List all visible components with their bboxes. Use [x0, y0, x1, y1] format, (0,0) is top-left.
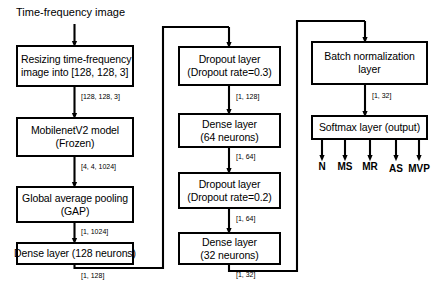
node-dropout-02-line-2: (Dropout rate=0.2) [187, 191, 271, 204]
node-resize-line-1: Resizing time-frequency [21, 53, 131, 66]
node-dense-128[interactable]: Dense layer (128 neurons) [16, 242, 134, 265]
node-dropout-02-line-1: Dropout layer [199, 178, 261, 191]
node-dense-64[interactable]: Dense layer (64 neurons) [178, 113, 281, 148]
edge-label-batchnorm-out: [1, 32] [372, 92, 391, 100]
node-dropout-03[interactable]: Dropout layer (Dropout rate=0.3) [178, 46, 281, 86]
output-label-mvp: MVP [404, 163, 434, 174]
node-softmax-line-1: Softmax layer (output) [319, 121, 420, 134]
edge-label-dense128-out: [1, 128] [81, 272, 104, 280]
node-dense-128-line-1: Dense layer (128 neurons) [14, 247, 136, 260]
output-label-ms: MS [333, 161, 357, 172]
output-label-mr: MR [358, 161, 382, 172]
node-batchnorm-line-2: layer [358, 63, 380, 76]
edge-label-dense64-out: [1, 64] [236, 153, 255, 161]
node-dense-32-line-2: (32 neurons) [200, 249, 258, 262]
node-dropout-03-line-1: Dropout layer [199, 53, 261, 66]
edge-label-mobilenet-out: [4, 4, 1024] [81, 163, 116, 171]
flowchart-diagram: Time-frequency image Resizing time-frequ… [0, 0, 435, 289]
edge-label-gap-out: [1, 1024] [81, 228, 108, 236]
output-label-n: N [312, 161, 332, 172]
node-dense-64-line-1: Dense layer [202, 118, 257, 131]
node-gap-line-1: Global average pooling [22, 192, 128, 205]
node-dense-32-line-1: Dense layer [202, 236, 257, 249]
edge-label-dense32-out: [1, 32] [236, 271, 255, 279]
node-mobilenetv2[interactable]: MobilenetV2 model (Frozen) [16, 117, 134, 157]
node-gap-line-2: (GAP) [61, 205, 90, 218]
input-title-label: Time-frequency image [16, 6, 125, 19]
edge-label-resize-out: [128, 128, 3] [81, 93, 120, 101]
node-global-average-pooling[interactable]: Global average pooling (GAP) [16, 186, 134, 223]
node-resize-line-2: image into [128, 128, 3] [21, 66, 128, 79]
node-softmax-output[interactable]: Softmax layer (output) [311, 115, 428, 140]
node-dropout-02[interactable]: Dropout layer (Dropout rate=0.2) [178, 172, 281, 209]
node-resize[interactable]: Resizing time-frequency image into [128,… [16, 45, 134, 87]
node-dropout-03-line-2: (Dropout rate=0.3) [187, 66, 271, 79]
edge-label-dropout03-out: [1, 128] [236, 93, 259, 101]
node-batchnorm-line-1: Batch normalization [324, 50, 414, 63]
node-dense-32[interactable]: Dense layer (32 neurons) [178, 232, 281, 265]
node-mobilenetv2-line-1: MobilenetV2 model [31, 124, 119, 137]
node-mobilenetv2-line-2: (Frozen) [56, 137, 95, 150]
node-dense-64-line-2: (64 neurons) [200, 131, 258, 144]
edge-label-dropout02-out: [1, 64] [236, 215, 255, 223]
node-batch-normalization[interactable]: Batch normalization layer [311, 41, 428, 85]
